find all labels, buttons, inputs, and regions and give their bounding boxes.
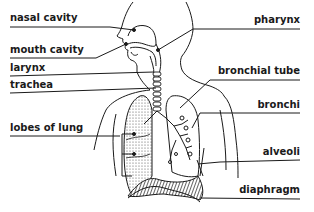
respiratory-diagram: nasal cavity mouth cavity larynx trachea… xyxy=(0,0,314,212)
right-lung xyxy=(166,96,200,177)
label-trachea: trachea xyxy=(10,79,53,91)
label-nasal-cavity: nasal cavity xyxy=(10,12,77,24)
label-alveoli: alveoli xyxy=(263,146,300,158)
label-lobes-of-lung: lobes of lung xyxy=(10,122,83,134)
label-bronchi: bronchi xyxy=(257,99,300,111)
label-bronchial-tube: bronchial tube xyxy=(218,65,300,77)
label-pharynx: pharynx xyxy=(254,14,300,26)
trachea-rings xyxy=(153,72,161,111)
label-larynx: larynx xyxy=(10,62,45,74)
body-outline xyxy=(94,2,238,178)
label-diaphragm: diaphragm xyxy=(239,184,300,196)
label-mouth-cavity: mouth cavity xyxy=(10,44,84,56)
